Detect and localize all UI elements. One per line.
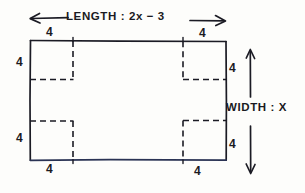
length-arrow-left-shaft xyxy=(31,18,68,19)
rectangle-bottom-edge xyxy=(30,160,226,161)
rectangle-left-edge xyxy=(30,41,31,161)
corner-label-top-right-side: 4 xyxy=(229,62,236,74)
corner-label-bottom-left-bottom: 4 xyxy=(46,163,53,175)
corner-label-bottom-left-side: 4 xyxy=(16,132,23,144)
width-dimension-label: WIDTH : X xyxy=(226,102,287,114)
corner-label-top-right-top: 4 xyxy=(199,27,206,39)
rectangle-top-edge xyxy=(31,41,227,42)
corner-label-bottom-right-bottom: 4 xyxy=(194,165,201,177)
corner-label-bottom-right-side: 4 xyxy=(229,138,236,150)
corner-label-top-left-top: 4 xyxy=(46,26,53,38)
diagram-canvas: LENGTH : 2x − 3 WIDTH : X 4 4 4 4 4 4 4 … xyxy=(0,0,305,193)
corner-label-top-left-side: 4 xyxy=(16,56,23,68)
length-dimension-label: LENGTH : 2x − 3 xyxy=(66,11,165,23)
